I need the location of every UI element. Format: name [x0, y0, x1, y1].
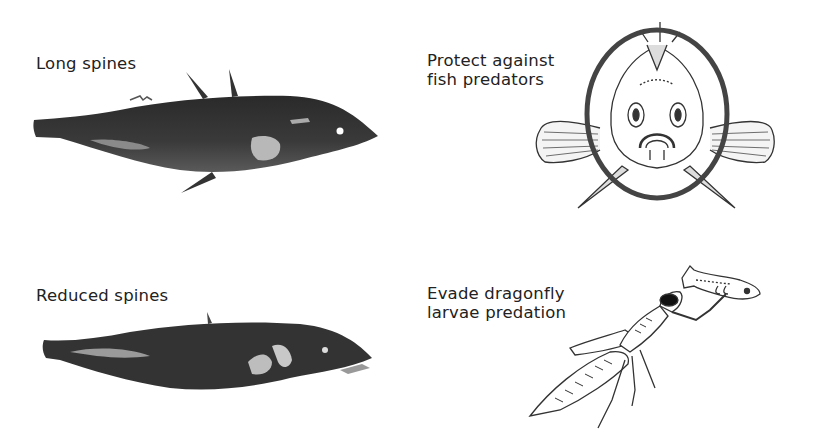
dragonfly-larva-illustration [0, 0, 825, 444]
